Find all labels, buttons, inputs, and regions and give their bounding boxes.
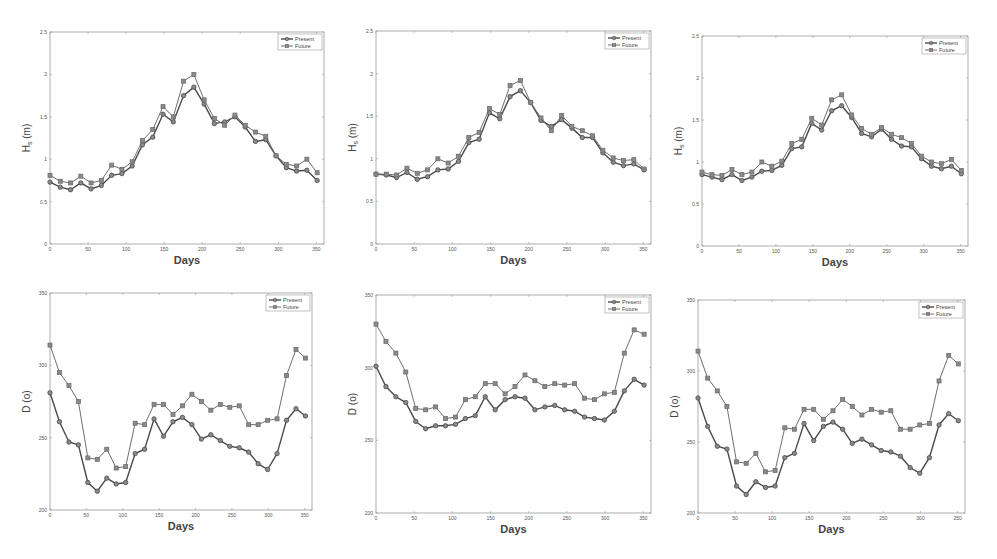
- y-tick-label: 250: [687, 439, 696, 445]
- data-point: [591, 134, 595, 138]
- data-point: [622, 159, 626, 163]
- data-point: [192, 72, 196, 76]
- data-point: [812, 407, 816, 411]
- data-point: [959, 168, 963, 172]
- data-point: [303, 356, 307, 360]
- data-point: [860, 413, 864, 417]
- x-tick-label: 50: [411, 515, 417, 521]
- data-point: [182, 79, 186, 83]
- y-tick-label: 250: [365, 437, 374, 443]
- x-axis-label: Days: [500, 254, 526, 266]
- x-tick-label: 50: [411, 246, 417, 252]
- data-point: [130, 160, 134, 164]
- data-point: [725, 447, 729, 451]
- data-point: [228, 444, 232, 448]
- data-point: [114, 466, 118, 470]
- legend-label: Present: [295, 36, 314, 42]
- chart-hs-left: 05010015020025030035000.511.522.5DaysHs …: [21, 29, 324, 266]
- data-point: [295, 164, 299, 168]
- data-point: [218, 402, 222, 406]
- data-point: [190, 422, 194, 426]
- data-point: [209, 408, 213, 412]
- data-point: [735, 460, 739, 464]
- x-tick-label: 150: [160, 246, 169, 252]
- data-point: [415, 177, 419, 181]
- data-point: [171, 115, 175, 119]
- data-point: [773, 468, 777, 472]
- data-point: [384, 172, 388, 176]
- y-axis-label: D (o): [347, 393, 358, 415]
- data-point: [436, 157, 440, 161]
- data-point: [900, 136, 904, 140]
- data-point: [840, 427, 844, 431]
- y-tick-label: 300: [365, 365, 374, 371]
- data-point: [120, 171, 124, 175]
- data-point: [140, 139, 144, 143]
- data-point: [780, 163, 784, 167]
- data-point: [305, 157, 309, 161]
- data-point: [700, 170, 704, 174]
- y-tick-label: 200: [39, 507, 48, 513]
- data-point: [143, 423, 147, 427]
- y-tick-label: 1.5: [692, 117, 699, 123]
- x-tick-label: 100: [448, 246, 457, 252]
- data-point: [706, 376, 710, 380]
- data-point: [929, 160, 933, 164]
- data-point: [841, 397, 845, 401]
- figure-canvas: 05010015020025030035000.511.522.5DaysHs …: [0, 0, 997, 559]
- data-point: [199, 400, 203, 404]
- data-point: [161, 112, 165, 116]
- y-tick-label: 2.5: [40, 29, 47, 35]
- data-point: [68, 188, 72, 192]
- data-point: [549, 129, 553, 133]
- data-point: [48, 391, 52, 395]
- data-point: [274, 154, 278, 158]
- y-tick-label: 0: [370, 241, 373, 247]
- data-point: [821, 417, 825, 421]
- data-point: [284, 418, 288, 422]
- y-axis-label: Hs (m): [21, 124, 33, 153]
- data-point: [829, 109, 833, 113]
- y-tick-label: 200: [687, 510, 696, 516]
- data-point: [533, 408, 537, 412]
- data-point: [237, 404, 241, 408]
- data-point: [513, 395, 517, 399]
- data-point: [86, 480, 90, 484]
- data-point: [109, 173, 113, 177]
- data-point: [720, 177, 724, 181]
- data-point: [612, 390, 616, 394]
- data-point: [715, 444, 719, 448]
- data-point: [563, 383, 567, 387]
- data-point: [850, 441, 854, 445]
- data-point: [79, 174, 83, 178]
- data-point: [850, 405, 854, 409]
- y-tick-label: 0.5: [40, 199, 47, 205]
- data-point: [212, 121, 216, 125]
- data-point: [539, 116, 543, 120]
- data-point: [583, 396, 587, 400]
- data-point: [580, 129, 584, 133]
- data-point: [740, 173, 744, 177]
- data-point: [161, 434, 165, 438]
- data-point: [133, 451, 137, 455]
- data-point: [780, 159, 784, 163]
- data-point: [642, 167, 646, 171]
- data-point: [899, 144, 903, 148]
- data-point: [446, 167, 450, 171]
- data-point: [67, 440, 71, 444]
- data-point: [444, 417, 448, 421]
- series-present: [696, 396, 961, 497]
- data-point: [181, 93, 185, 97]
- x-tick-label: 300: [919, 248, 928, 254]
- x-tick-label: 250: [236, 246, 245, 252]
- x-tick-label: 350: [301, 512, 310, 518]
- data-point: [730, 168, 734, 172]
- data-point: [209, 433, 213, 437]
- y-tick-label: 350: [39, 290, 48, 296]
- data-point: [404, 400, 408, 404]
- y-tick-label: 1.5: [40, 114, 47, 120]
- x-tick-label: 150: [486, 515, 495, 521]
- data-point: [152, 417, 156, 421]
- series-future: [374, 78, 646, 177]
- data-point: [473, 395, 477, 399]
